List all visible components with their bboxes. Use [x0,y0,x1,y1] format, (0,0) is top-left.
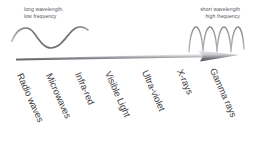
electromagnetic-spectrum-figure: long wavelength, low frequency short wav… [0,0,262,152]
band-label-infra-red: Infra-red [73,70,97,106]
band-label-visible-light: Visible Light [103,69,133,118]
band-label-microwaves: Microwaves [44,71,74,120]
band-label-x-rays: X-rays [175,67,196,96]
band-label-ultra-violet: Ultra-violet [140,68,168,112]
band-label-radio-waves: Radio waves [15,71,46,124]
band-label-gamma-rays: Gamma rays [208,66,239,119]
spectrum-band-labels: Radio waves Microwaves Infra-red Visible… [0,0,262,152]
